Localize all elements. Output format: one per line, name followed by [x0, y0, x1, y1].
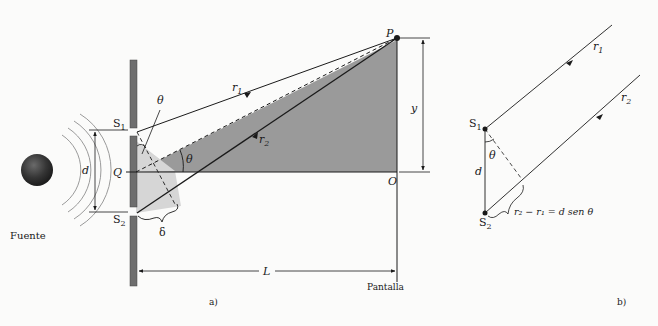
- theta-label-b: θ: [489, 149, 496, 162]
- r2-b-arrow-icon: [596, 114, 603, 120]
- q-label: Q: [113, 166, 122, 179]
- s2-label: S2: [113, 213, 126, 228]
- path-diff-equation: r₂ − r₁ = d sen θ: [514, 206, 593, 217]
- slit-barrier: [130, 60, 137, 286]
- s1-label-b: S1: [469, 117, 482, 132]
- r2-label-b: r2: [621, 91, 631, 106]
- s2-point: [483, 211, 488, 216]
- theta-label-top: θ: [157, 94, 164, 107]
- theta-label-center: θ: [186, 153, 193, 166]
- r1-arrow-icon: [244, 92, 251, 98]
- d-label: d: [82, 164, 89, 177]
- theta-arc-b: [485, 139, 494, 142]
- p-label: P: [385, 27, 394, 40]
- l-label: L: [262, 265, 270, 278]
- source-sphere-icon: [21, 154, 53, 186]
- o-label: O: [388, 175, 397, 188]
- panel-a: Fuente S1 S2 Q d θ θ δ r1 r2 P O y L Pan…: [10, 27, 430, 307]
- double-slit-figure: Fuente S1 S2 Q d θ θ δ r1 r2 P O y L Pan…: [0, 0, 658, 326]
- r1-b-arrow-icon: [566, 60, 573, 66]
- screen-label: Pantalla: [367, 282, 405, 292]
- d-label-b: d: [475, 165, 482, 178]
- r1-label-b: r1: [593, 40, 603, 55]
- s2-label-b: S2: [479, 216, 492, 231]
- panel-b-caption: b): [617, 297, 626, 307]
- panel-a-caption: a): [209, 297, 218, 307]
- ray-r2-b: [485, 75, 640, 213]
- s1-point: [483, 127, 488, 132]
- delta-label: δ: [159, 226, 166, 239]
- r1-label: r1: [232, 81, 242, 96]
- source-label: Fuente: [10, 230, 46, 241]
- y-label: y: [410, 102, 418, 115]
- panel-b: S1 S2 d θ r1 r2 r₂ − r₁ = d sen θ b): [469, 25, 640, 307]
- s1-label: S1: [113, 117, 126, 132]
